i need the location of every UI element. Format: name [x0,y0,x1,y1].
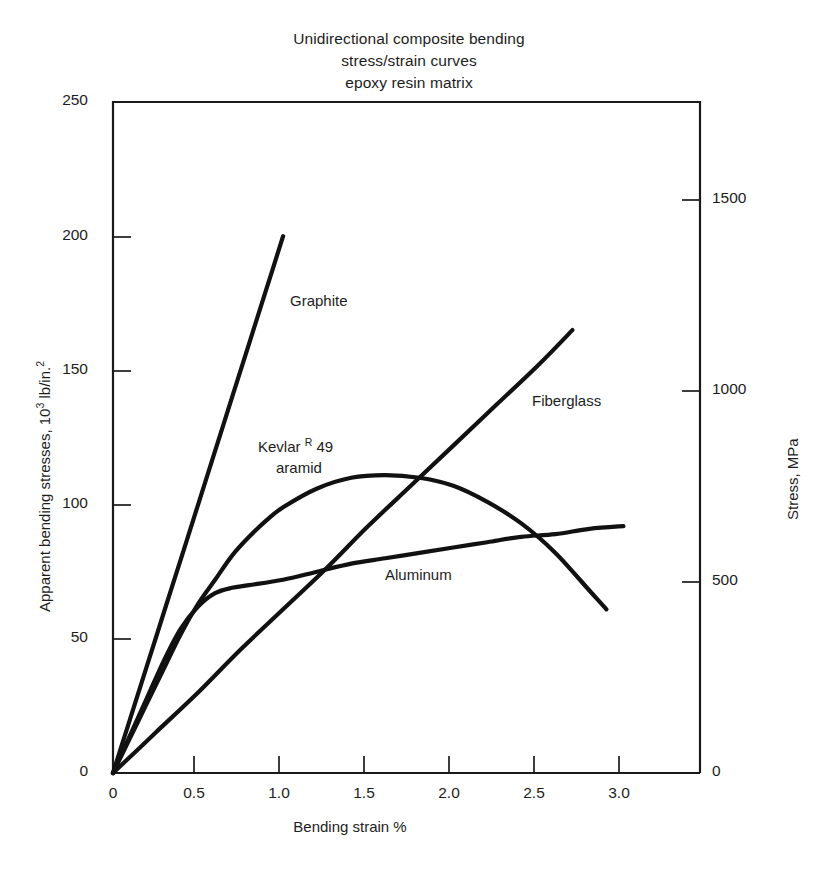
y-left-tick-250: 250 [26,91,88,109]
y-left-axis-title: Apparent bending stresses, 103 lb/in.2 [34,361,53,612]
y-left-tick-200: 200 [26,226,88,244]
y-left-tick-50: 50 [26,628,88,646]
y-left-axis-title-main: Apparent bending stresses, 10 [36,409,53,612]
x-axis-title: Bending strain % [0,818,700,835]
x-tick-3-0: 3.0 [599,784,639,802]
x-tick-2-0: 2.0 [429,784,469,802]
x-tick-0-5: 0.5 [174,784,214,802]
y-left-tick-0: 0 [26,762,88,780]
x-tick-1-0: 1.0 [259,784,299,802]
curve-label-kevlar-grade: 49 [312,438,333,455]
x-tick-1-5: 1.5 [344,784,384,802]
y-left-axis-title-tail: lb/in. [36,367,53,403]
curve-label-fiberglass: Fiberglass [532,390,601,411]
y-right-tick-1500: 1500 [712,189,746,207]
y-right-tick-1000: 1000 [712,380,746,398]
y-right-tick-0: 0 [712,762,721,780]
curve-label-graphite: Graphite [290,290,348,311]
curve-label-kevlar: Kevlar R 49aramid [258,432,333,478]
x-tick-0: 0 [93,784,133,802]
plot-frame [113,102,700,773]
curve-label-kevlar-name: Kevlar [258,438,305,455]
y-left-axis-title-exponent: 3 [34,403,46,409]
chart-figure: Unidirectional composite bending stress/… [0,0,818,877]
curve-label-kevlar-aramid: aramid [258,457,333,478]
curve-aluminum [113,526,623,773]
y-left-ticks [113,237,131,639]
y-right-tick-500: 500 [712,571,738,589]
y-right-ticks [682,200,700,582]
x-tick-2-5: 2.5 [514,784,554,802]
curve-kevlar [113,475,606,773]
curve-label-aluminum: Aluminum [385,564,452,585]
x-ticks [194,756,619,773]
y-right-axis-title: Stress, MPa [784,438,801,520]
y-left-axis-title-tail-exponent: 2 [34,361,46,367]
plot-area [0,0,818,877]
